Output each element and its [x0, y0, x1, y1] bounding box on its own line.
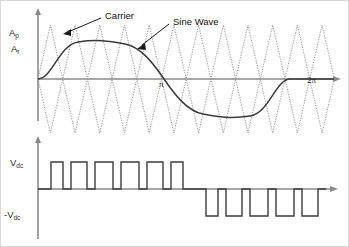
sine-wave-leader-arrowhead: [137, 43, 146, 50]
label-ar-subscript: r: [17, 48, 19, 55]
top-y-axis-arrowhead: [35, 8, 41, 15]
annotation-sine-wave: Sine Wave: [173, 17, 219, 27]
label-ap-subscript: p: [15, 32, 19, 39]
label-vdc-subscript: dc: [16, 162, 23, 169]
x-tick-label-two-pi: 2π: [307, 76, 316, 85]
bottom-panel-axes: [35, 136, 338, 239]
label-vdc-positive: Vdc: [10, 158, 23, 168]
label-carrier-peak-amplitude: Ap: [9, 28, 19, 38]
bottom-y-axis-arrowhead: [35, 136, 41, 143]
bottom-x-axis-arrowhead: [330, 186, 338, 192]
carrier-leader: [63, 18, 101, 36]
label-vdc-negative: -Vdc: [4, 210, 20, 220]
label-neg-vdc-base: -V: [4, 209, 14, 220]
label-reference-amplitude: Ar: [11, 44, 20, 54]
carrier-leader-arrowhead: [63, 29, 71, 36]
annotation-carrier: Carrier: [105, 11, 134, 21]
sine-wave-leader: [137, 24, 169, 50]
x-tick-label-pi: π: [159, 80, 164, 89]
pwm-diagram-figure: Ap Ar Carrier Sine Wave π 2π Vdc -Vdc: [0, 0, 349, 247]
diagram-canvas: [1, 1, 349, 247]
label-neg-vdc-subscript: dc: [14, 214, 21, 221]
